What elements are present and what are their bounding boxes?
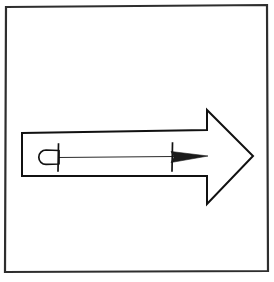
drawing-canvas [0, 0, 274, 282]
dart-crossbar [172, 143, 173, 171]
pin-head-crossbar [58, 144, 59, 171]
arrow-line-drawing [0, 0, 274, 282]
pin-head-cap-icon [39, 150, 59, 164]
